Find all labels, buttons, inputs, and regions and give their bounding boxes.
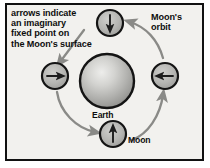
moons-orbit-label: Moon's orbit (151, 12, 182, 32)
earth-body (80, 54, 134, 108)
fixed-point-note: arrows indicate an imaginary fixed point… (11, 8, 92, 49)
moon-bottom (100, 121, 126, 147)
moon-left (42, 63, 68, 89)
arrow-bottom-to-right (132, 95, 163, 140)
moon-right (152, 63, 178, 89)
moon-top (97, 10, 123, 36)
earth-label: Earth (92, 110, 113, 120)
earth-circle (80, 54, 134, 108)
moon-label: Moon (128, 135, 151, 145)
moon-orbit-diagram: arrows indicate an imaginary fixed point… (0, 0, 210, 168)
